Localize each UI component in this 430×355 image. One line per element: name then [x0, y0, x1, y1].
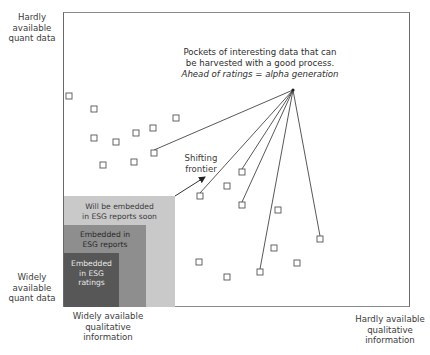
data-point-square — [196, 259, 202, 265]
callout-line: Ahead of ratings = alpha generation — [160, 69, 360, 80]
data-point-square — [239, 169, 245, 175]
callout-line: be harvested with a good process. — [160, 58, 360, 69]
data-point-square — [275, 207, 281, 213]
data-point-square — [131, 159, 137, 165]
data-point-square — [257, 269, 263, 275]
callout-anchor-dot — [291, 88, 294, 91]
callout-line — [260, 90, 293, 269]
label-line: Shifting — [176, 153, 226, 164]
data-point-square — [173, 115, 179, 121]
data-point-square — [150, 125, 156, 131]
callout-line: Pockets of interesting data that can — [160, 47, 360, 58]
data-points — [66, 93, 323, 280]
data-point-square — [91, 106, 97, 112]
data-point-square — [271, 245, 277, 251]
data-point-square — [100, 162, 106, 168]
data-point-square — [66, 93, 72, 99]
data-point-square — [224, 274, 230, 280]
data-point-square — [133, 130, 139, 136]
data-point-square — [239, 202, 245, 208]
label-line: frontier — [176, 164, 226, 175]
data-point-square — [197, 193, 203, 199]
data-point-square — [294, 260, 300, 266]
data-point-square — [224, 183, 230, 189]
callout-line — [293, 90, 320, 236]
data-point-square — [151, 150, 157, 156]
callout-line — [242, 90, 293, 202]
callout-line — [200, 90, 293, 193]
callout-text: Pockets of interesting data that can be … — [160, 47, 360, 80]
frontier-label: Shifting frontier — [176, 153, 226, 174]
data-point-square — [91, 135, 97, 141]
data-point-square — [317, 236, 323, 242]
data-point-square — [113, 139, 119, 145]
